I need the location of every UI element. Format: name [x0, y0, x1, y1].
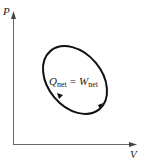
w-subscript: net [88, 80, 99, 89]
y-axis-arrowhead-icon [11, 11, 16, 19]
q-subscript: net [57, 80, 68, 89]
equals-sign: = [70, 75, 76, 87]
cycle-equation: Qnet=Wnet [49, 75, 99, 89]
x-axis-arrowhead-icon [129, 142, 137, 147]
x-axis-label: V [130, 148, 138, 160]
y-axis-label: P [2, 5, 10, 17]
cycle-direction-arrow-icon [57, 93, 63, 99]
pv-diagram: P V Qnet=Wnet [0, 0, 149, 160]
q-symbol: Q [49, 75, 57, 87]
